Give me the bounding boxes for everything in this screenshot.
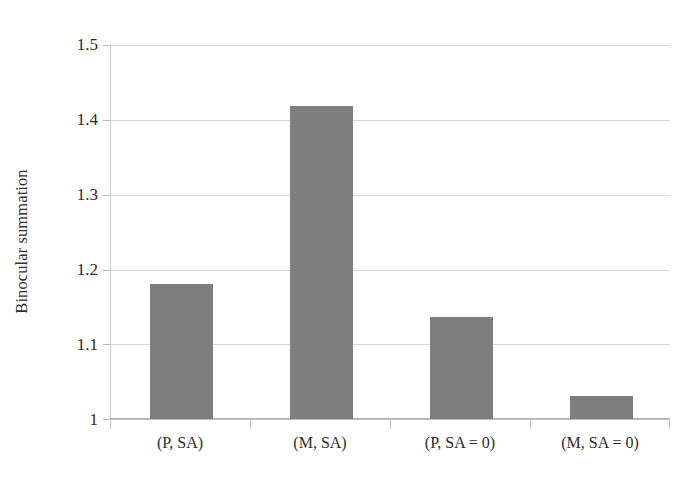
y-axis-title: Binocular summation — [0, 0, 44, 483]
x-axis-tick-end — [669, 419, 670, 429]
bar-m-sa — [290, 106, 353, 419]
gridline-1-5 — [110, 45, 670, 46]
bar-p-sa — [150, 284, 213, 419]
plot-area — [110, 45, 670, 419]
gridline-1-4 — [110, 120, 670, 121]
gridline-1-3 — [110, 195, 670, 196]
y-tick-mark-1-4 — [103, 120, 110, 121]
bar-m-sa-zero — [570, 396, 633, 419]
bar-p-sa-zero — [430, 317, 493, 419]
x-tick-label-p-sa-zero: (P, SA = 0) — [390, 434, 530, 452]
y-tick-label-1-0: 1 — [52, 411, 98, 428]
x-axis-tick-1 — [250, 419, 251, 429]
y-tick-label-1-2: 1.2 — [52, 261, 98, 278]
x-axis-tick-start — [110, 419, 111, 429]
y-tick-mark-1-0 — [103, 419, 110, 420]
y-tick-mark-1-2 — [103, 270, 110, 271]
y-tick-label-1-4: 1.4 — [52, 111, 98, 128]
x-axis-tick-3 — [530, 419, 531, 429]
y-tick-label-1-5: 1.5 — [52, 36, 98, 53]
x-tick-label-p-sa: (P, SA) — [110, 434, 250, 452]
x-tick-label-m-sa: (M, SA) — [250, 434, 390, 452]
y-tick-mark-1-1 — [103, 344, 110, 345]
gridline-1-2 — [110, 270, 670, 271]
y-tick-mark-1-3 — [103, 195, 110, 196]
bar-chart: Binocular summation 1.5 1.4 1.3 1.2 1.1 … — [0, 0, 697, 483]
y-tick-label-1-1: 1.1 — [52, 336, 98, 353]
x-tick-label-m-sa-zero: (M, SA = 0) — [530, 434, 670, 452]
y-tick-mark-1-5 — [103, 45, 110, 46]
x-axis-tick-2 — [390, 419, 391, 429]
y-tick-label-1-3: 1.3 — [52, 186, 98, 203]
